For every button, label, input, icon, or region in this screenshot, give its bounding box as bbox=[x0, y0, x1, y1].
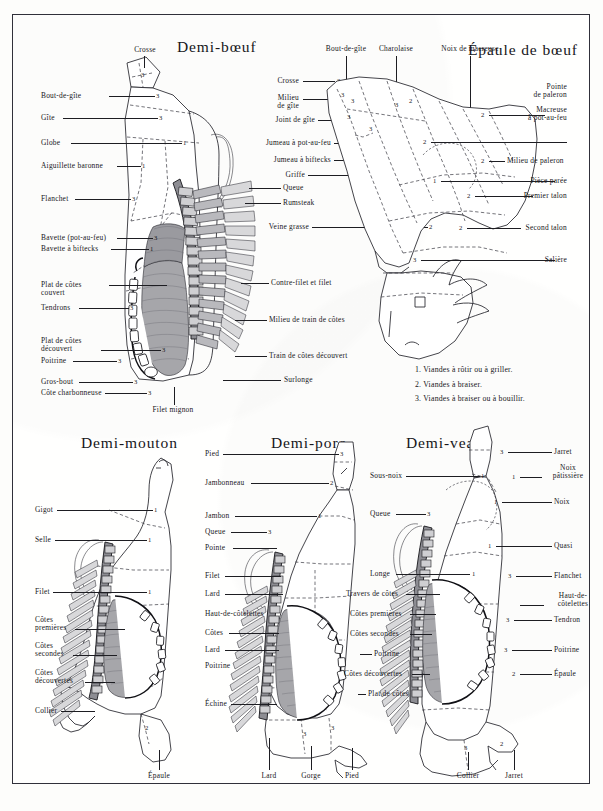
num-bavette-a-biftecks: 1 bbox=[150, 245, 153, 252]
label-flanchet-veau: Flanchet bbox=[554, 572, 581, 580]
num-cote-charbonneuse: 3 bbox=[148, 389, 151, 396]
num-jambon: 1 bbox=[318, 512, 321, 519]
svg-text:2: 2 bbox=[145, 724, 148, 731]
label-gros-bout: Gros-bout bbox=[41, 378, 73, 386]
label-gite: Gîte bbox=[41, 114, 55, 122]
figure-demi-mouton: Demi-mouton bbox=[13, 420, 213, 785]
num-poitrine: 3 bbox=[118, 357, 121, 364]
label-jambonneau: Jambonneau bbox=[205, 479, 244, 487]
label-flanchet: Flanchet bbox=[41, 195, 68, 203]
legend-item-3: 3. Viandes à braiser ou à bouillir. bbox=[415, 392, 525, 407]
num-bout-de-gite: 3 bbox=[156, 92, 159, 99]
label-haut-de-cotelettes-veau: Haut-de-côtelettes bbox=[546, 592, 600, 609]
label-poitrine-porc: Poitrine bbox=[205, 662, 230, 670]
label-macreuse-a-pot-au-feu: Macreuseà pot-au-feu bbox=[483, 106, 567, 123]
label-epaule-mouton: Épaule bbox=[135, 772, 183, 780]
num-piece-paree: 1 bbox=[433, 177, 436, 184]
label-crosse-top: Crosse bbox=[121, 46, 169, 54]
label-tendron: Tendron bbox=[554, 616, 580, 624]
label-poitrine: Poitrine bbox=[41, 357, 66, 365]
epaule-drawing: 3 3 3 3 3 2 bbox=[303, 15, 591, 400]
num-plat-de-cotes-decouvert: 3 bbox=[162, 346, 165, 353]
label-noix: Noix bbox=[554, 498, 570, 506]
label-griffe: Griffe bbox=[245, 171, 305, 179]
label-tendrons: Tendrons bbox=[41, 304, 70, 312]
label-plat-de-cotes-couvert: Plat de côtescouvert bbox=[41, 281, 107, 298]
label-crosse-mid: Crosse bbox=[245, 77, 299, 85]
num-crosse-top: 3 bbox=[141, 71, 144, 78]
num-flanchet-veau: 3 bbox=[508, 572, 511, 579]
label-haut-de-cotelettes-porc: Haut-de-côtelettes bbox=[205, 610, 264, 618]
label-globe: Globe bbox=[41, 139, 60, 147]
label-queue-veau: Queue bbox=[370, 510, 391, 518]
label-epaule-veau: Épaule bbox=[554, 670, 576, 678]
label-filet-mignon: Filet mignon bbox=[143, 406, 203, 414]
label-plat-de-cotes-decouvert: Plat de côtesdécouvert bbox=[41, 337, 107, 354]
num-epaule-veau: 2 bbox=[512, 670, 515, 677]
label-selle: Selle bbox=[35, 536, 51, 544]
num-queue-porc: 3 bbox=[268, 528, 271, 535]
num-tendrons: 3 bbox=[130, 304, 133, 311]
num-tendron: 3 bbox=[506, 616, 509, 623]
label-milieu-de-gite: Milieude gîte bbox=[245, 94, 299, 111]
label-longe: Longe bbox=[370, 570, 390, 578]
label-queue: Queue bbox=[283, 184, 304, 192]
label-jambon: Jambon bbox=[205, 512, 230, 520]
num-jarret-top: 3 bbox=[500, 448, 503, 455]
svg-text:3: 3 bbox=[464, 744, 468, 751]
label-aiguillette-baronne: Aiguillette baronne bbox=[41, 162, 103, 170]
legend-item-2: 2. Viandes à braiser. bbox=[415, 378, 525, 393]
num-jambonneau: 2 bbox=[330, 479, 333, 486]
num-noix-patissiere: 1 bbox=[512, 473, 515, 480]
label-quasi: Quasi bbox=[554, 542, 573, 550]
svg-text:2: 2 bbox=[409, 97, 412, 104]
num-selle: 1 bbox=[148, 536, 151, 543]
label-filet-porc: Filet bbox=[205, 572, 220, 580]
num-pied-porc: 3 bbox=[340, 450, 343, 457]
num-flanchet: 3 bbox=[132, 195, 135, 202]
label-collier-mouton: Collier bbox=[35, 707, 57, 715]
num-noix: 1 bbox=[494, 498, 497, 505]
num-premier-talon: 2 bbox=[467, 192, 470, 199]
num-second-talon: 2 bbox=[459, 224, 462, 231]
num-gros-bout: 3 bbox=[134, 378, 137, 385]
num-gite: 3 bbox=[159, 114, 162, 121]
figure-demi-veau: Demi-veau bbox=[368, 420, 591, 785]
label-lard-porc-1: Lard bbox=[205, 590, 220, 598]
plate-frame: Demi-bœuf bbox=[12, 14, 590, 784]
num-quasi: 1 bbox=[488, 542, 491, 549]
svg-text:3: 3 bbox=[303, 730, 307, 737]
label-gorge: Gorge bbox=[291, 772, 331, 780]
label-lard-bottom: Lard bbox=[251, 772, 287, 780]
label-bavette-a-biftecks: Bavette à biftecks bbox=[41, 245, 98, 253]
label-cotes-porc: Côtes bbox=[205, 629, 223, 637]
num-longe: 1 bbox=[472, 570, 475, 577]
num-poitrine-veau-right: 3 bbox=[504, 646, 507, 653]
num-bavette-pot-au-feu: 3 bbox=[154, 234, 157, 241]
demi-mouton-drawing: 2 bbox=[13, 420, 213, 785]
label-cotes-decouvertes-mouton: Côtesdécouvertes bbox=[35, 669, 93, 686]
num-globe: 1 bbox=[183, 139, 186, 146]
num-milieu-de-paleron: 2 bbox=[481, 157, 484, 164]
label-cotes-premieres-veau: Côtes premières bbox=[350, 610, 402, 618]
label-cotes-decouvertes-veau: Côtes découvertes bbox=[344, 670, 402, 678]
label-lard-porc-2: Lard bbox=[205, 646, 220, 654]
label-jarret-bottom: Jarret bbox=[494, 772, 534, 780]
label-pied-porc: Pied bbox=[205, 450, 219, 458]
label-poitrine-veau-right: Poitrine bbox=[554, 646, 579, 654]
label-cotes-secondes-veau: Côtes secondes bbox=[350, 630, 399, 638]
label-collier-veau: Collier bbox=[448, 772, 488, 780]
num-aiguillette-baronne: 1 bbox=[142, 162, 145, 169]
label-gigot: Gigot bbox=[35, 506, 53, 514]
label-cotes-premieres-mouton: Côtespremières bbox=[35, 616, 89, 633]
legend-item-1: 1. Viandes à rôtir ou à griller. bbox=[415, 363, 525, 378]
label-milieu-de-paleron: Milieu de paleron bbox=[507, 157, 564, 165]
label-cote-charbonneuse: Côte charbonneuse bbox=[41, 389, 102, 397]
label-queue-porc: Queue bbox=[205, 528, 226, 536]
label-bavette-pot-au-feu: Bavette (pot-au-feu) bbox=[41, 234, 106, 242]
label-cotes-secondes-mouton: Côtessecondes bbox=[35, 642, 89, 659]
label-bout-de-gite: Bout-de-gîte bbox=[41, 92, 81, 100]
num-macreuse-a-pot-au-feu: 2 bbox=[423, 138, 426, 145]
num-gigot: 1 bbox=[154, 506, 157, 513]
label-jarret-top: Jarret bbox=[554, 448, 572, 456]
